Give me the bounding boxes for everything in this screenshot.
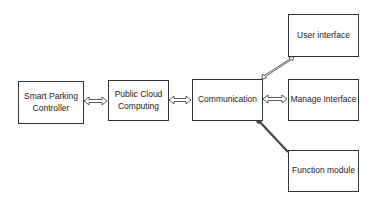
node-manage-interface: Manage Interface	[288, 79, 359, 121]
arrow-communication-to-user	[262, 57, 294, 80]
node-label-line1: Public Cloud	[115, 89, 163, 100]
node-communication: Communication	[192, 79, 263, 121]
connector-communication-to-function	[257, 119, 288, 152]
node-label: User interface	[297, 30, 350, 41]
node-user-interface: User interface	[288, 14, 359, 57]
node-label: Function module	[292, 165, 355, 176]
arrow-communication-to-manage	[263, 95, 287, 103]
node-label: Manage Interface	[290, 94, 356, 105]
node-label-line2: Computing	[115, 101, 163, 112]
node-label-line2: Controller	[24, 103, 78, 114]
node-label: Communication	[198, 94, 257, 105]
node-public-cloud-computing: Public Cloud Computing	[108, 80, 169, 121]
node-function-module: Function module	[288, 150, 359, 192]
node-smart-parking-controller: Smart Parking Controller	[18, 81, 84, 124]
node-label-line1: Smart Parking	[24, 91, 78, 102]
arrow-cloud-to-communication	[169, 96, 191, 104]
arrow-spc-to-cloud	[84, 97, 107, 105]
